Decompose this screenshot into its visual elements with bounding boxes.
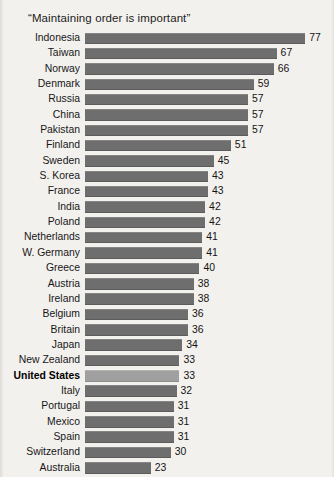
bar-track [85,201,205,213]
bar-value-label: 45 [218,154,230,168]
bar [85,155,214,167]
bar-value-label: 40 [203,261,215,275]
bar-value-label: 32 [181,384,193,398]
bar-track [85,186,208,198]
bar-value-label: 31 [178,415,190,429]
category-label: Denmark [0,77,80,91]
bar-value-label: 41 [206,230,218,244]
category-label: China [0,108,80,122]
bar [85,109,248,121]
chart-row: S. Korea43 [0,169,334,184]
bar-value-label: 42 [209,215,221,229]
category-label: Netherlands [0,230,80,244]
category-label: W. Germany [0,246,80,260]
bar-value-label: 36 [192,323,204,337]
category-label: S. Korea [0,169,80,183]
bar [85,385,177,397]
bar-track [85,140,231,152]
chart-row: Portugal31 [0,399,334,414]
bar [85,324,188,336]
chart-row: France43 [0,184,334,199]
bar [85,217,205,229]
bar-value-label: 33 [183,353,195,367]
bar-value-label: 31 [178,430,190,444]
chart-row: Pakistan57 [0,123,334,138]
bar-track [85,63,274,75]
bar-track [85,155,214,167]
bar-value-label: 43 [212,169,224,183]
chart-row: Russia57 [0,92,334,107]
chart-row: Italy32 [0,384,334,399]
chart-row: W. Germany41 [0,246,334,261]
bar-track [85,401,174,413]
bar-track [85,232,202,244]
category-label: United States [0,369,80,383]
bar-track [85,309,188,321]
chart-title: “Maintaining order is important” [28,12,190,24]
bar-track [85,171,208,183]
bar-track [85,385,177,397]
bar [85,125,248,137]
chart-plot-area: Indonesia77Taiwan67Norway66Denmark59Russ… [0,31,334,477]
bar-track [85,33,305,45]
bar-track [85,370,179,382]
category-label: Greece [0,261,80,275]
chart-row: China57 [0,108,334,123]
bar-track [85,339,182,351]
bar [85,309,188,321]
bar-value-label: 41 [206,246,218,260]
bar-value-label: 43 [212,184,224,198]
chart-row: Austria38 [0,277,334,292]
bar [85,447,171,459]
bar-track [85,125,248,137]
bar [85,339,182,351]
bar [85,79,254,91]
bar-track [85,247,202,259]
bar-value-label: 57 [252,123,264,137]
bar-value-label: 23 [155,461,167,475]
category-label: Norway [0,62,80,76]
category-label: Portugal [0,399,80,413]
bar [85,140,231,152]
chart-row: Poland42 [0,215,334,230]
category-label: Belgium [0,307,80,321]
bar [85,416,174,428]
category-label: Poland [0,215,80,229]
bar-value-label: 33 [183,369,195,383]
chart-row: Sweden45 [0,154,334,169]
bar [85,33,305,45]
bar-track [85,263,199,275]
category-label: Switzerland [0,445,80,459]
category-label: Russia [0,92,80,106]
bar [85,278,194,290]
bar [85,94,248,106]
bar-track [85,416,174,428]
bar-track [85,109,248,121]
bar-value-label: 34 [186,338,198,352]
category-label: Italy [0,384,80,398]
bar-value-label: 57 [252,108,264,122]
bar-value-label: 42 [209,200,221,214]
chart-row: Mexico31 [0,415,334,430]
chart-row: New Zealand33 [0,353,334,368]
chart-row: Belgium36 [0,307,334,322]
bar [85,401,174,413]
bar-value-label: 59 [258,77,270,91]
bar-track [85,447,171,459]
bar [85,48,277,60]
category-label: Australia [0,461,80,475]
bar [85,462,151,474]
bar-track [85,293,194,305]
chart-row: Australia23 [0,461,334,476]
bar-track [85,278,194,290]
bar-value-label: 77 [309,31,321,45]
bar-value-label: 31 [178,399,190,413]
chart-row: Switzerland30 [0,445,334,460]
bar-value-label: 38 [198,277,210,291]
bar [85,171,208,183]
category-label: Finland [0,138,80,152]
chart-row: Netherlands41 [0,230,334,245]
bar-track [85,217,205,229]
bar [85,293,194,305]
chart-row: Finland51 [0,138,334,153]
